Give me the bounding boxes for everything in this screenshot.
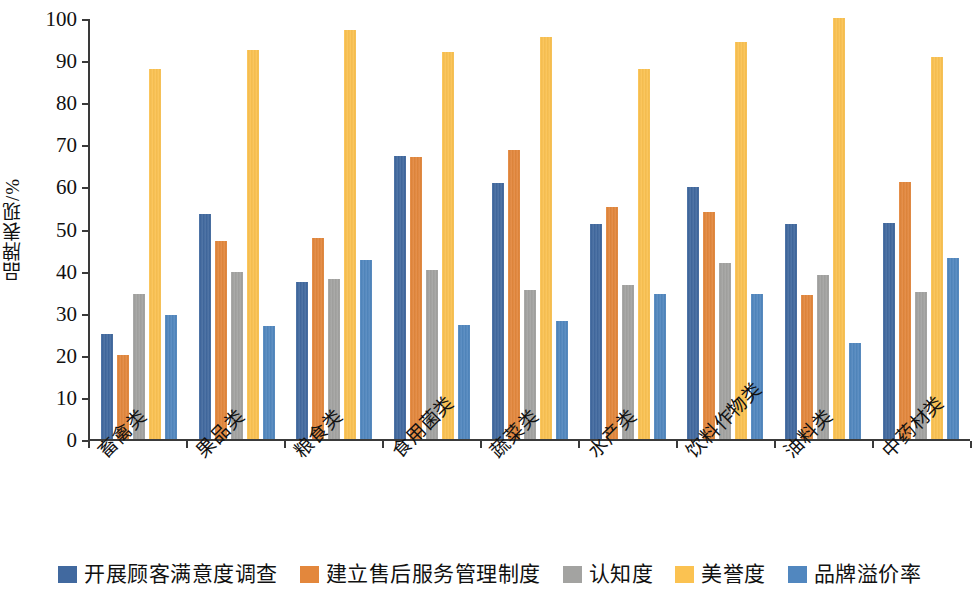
bar (458, 325, 470, 440)
y-tick-mark (82, 398, 90, 400)
y-tick-mark (82, 61, 90, 63)
legend-item[interactable]: 认知度 (563, 562, 654, 586)
bar (883, 223, 895, 439)
bar (687, 187, 699, 439)
legend-label: 开展顾客满意度调查 (84, 562, 278, 586)
y-tick-label: 40 (56, 259, 77, 285)
legend-swatch-icon (300, 566, 319, 583)
legend-label: 认知度 (589, 562, 654, 586)
bar-group (488, 20, 572, 439)
y-tick-label: 30 (56, 301, 77, 327)
bar-group (781, 20, 865, 439)
bar-group (97, 20, 181, 439)
legend-label: 品牌溢价率 (814, 562, 922, 586)
bar-group (586, 20, 670, 439)
chart-legend: 开展顾客满意度调查建立售后服务管理制度认知度美誉度品牌溢价率 (0, 562, 979, 586)
bar (654, 294, 666, 439)
y-tick-label: 10 (56, 385, 77, 411)
bar (344, 30, 356, 439)
y-tick-mark (82, 230, 90, 232)
bar (556, 321, 568, 439)
y-tick-mark (82, 314, 90, 316)
legend-item[interactable]: 开展顾客满意度调查 (58, 562, 278, 586)
y-tick-label: 70 (56, 132, 77, 158)
legend-item[interactable]: 建立售后服务管理制度 (300, 562, 541, 586)
bar (101, 334, 113, 439)
legend-label: 美誉度 (701, 562, 766, 586)
y-axis-title: 品牌表现/% (2, 178, 28, 281)
bar-group (879, 20, 963, 439)
bar (442, 52, 454, 439)
bar (540, 37, 552, 439)
bar (263, 326, 275, 439)
y-tick-label: 50 (56, 217, 77, 243)
bar (833, 18, 845, 439)
y-tick-mark (82, 145, 90, 147)
bar-group (195, 20, 279, 439)
x-axis-labels: 畜禽类果品类粮食类食用菌类蔬菜类水产类饮料作物类油料类中药材类 (88, 447, 970, 542)
bar-group (683, 20, 767, 439)
bar (492, 183, 504, 439)
y-tick-mark (82, 187, 90, 189)
y-tick-label: 60 (56, 174, 77, 200)
bar (296, 282, 308, 439)
legend-item[interactable]: 品牌溢价率 (788, 562, 922, 586)
bar (899, 182, 911, 439)
y-tick-label: 20 (56, 343, 77, 369)
legend-swatch-icon (675, 566, 694, 583)
y-tick-mark (82, 103, 90, 105)
bar (849, 343, 861, 439)
bar (410, 157, 422, 439)
bar-chart: 品牌表现/% 0102030405060708090100 畜禽类果品类粮食类食… (0, 0, 979, 594)
bar (149, 69, 161, 439)
bar (394, 156, 406, 439)
bar (360, 260, 372, 439)
legend-item[interactable]: 美誉度 (675, 562, 766, 586)
y-tick-mark (82, 356, 90, 358)
bar (751, 294, 763, 439)
bar (199, 214, 211, 439)
y-tick-mark (82, 272, 90, 274)
y-tick-label: 0 (67, 427, 78, 453)
bar (590, 224, 602, 439)
y-tick-label: 80 (56, 90, 77, 116)
bar-group (390, 20, 474, 439)
bar (165, 315, 177, 439)
bar (638, 69, 650, 439)
bar (606, 207, 618, 439)
y-tick-label: 100 (46, 6, 78, 32)
bar (215, 241, 227, 439)
legend-label: 建立售后服务管理制度 (326, 562, 541, 586)
bar (931, 57, 943, 439)
bar (508, 150, 520, 439)
bar (247, 50, 259, 439)
bar (735, 42, 747, 439)
bar (947, 258, 959, 439)
legend-swatch-icon (563, 566, 582, 583)
legend-swatch-icon (788, 566, 807, 583)
x-tick-mark (970, 441, 972, 448)
bar-group (292, 20, 376, 439)
y-tick-label: 90 (56, 48, 77, 74)
bar-groups (90, 20, 970, 439)
bar (703, 212, 715, 439)
plot-area: 0102030405060708090100 (88, 20, 970, 441)
y-tick-mark (82, 19, 90, 21)
legend-swatch-icon (58, 566, 77, 583)
bar (312, 238, 324, 439)
bar (785, 224, 797, 439)
